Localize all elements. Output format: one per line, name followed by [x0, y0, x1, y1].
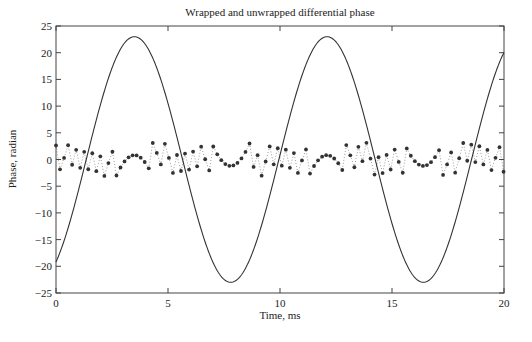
- wrapped-phase-marker: [74, 148, 78, 152]
- axes-frame: [56, 26, 504, 293]
- x-tick-label: 10: [275, 297, 287, 309]
- y-tick-label: 0: [47, 154, 53, 166]
- y-tick-label: −15: [35, 234, 53, 246]
- wrapped-phase-marker: [381, 171, 385, 175]
- wrapped-phase-marker: [397, 160, 401, 164]
- wrapped-phase-marker: [332, 157, 336, 161]
- wrapped-phase-marker: [183, 152, 187, 156]
- wrapped-phase-marker: [147, 166, 151, 170]
- wrapped-phase-marker: [94, 169, 98, 173]
- wrapped-phase-marker: [264, 160, 268, 164]
- wrapped-phase-marker: [449, 151, 453, 155]
- wrapped-phase-marker: [292, 151, 296, 155]
- wrapped-phase-marker: [296, 171, 300, 175]
- plot-area: 051015202520151050−5−10−15−20−25: [0, 0, 532, 342]
- wrapped-phase-marker: [308, 172, 312, 176]
- wrapped-phase-marker: [167, 156, 171, 160]
- wrapped-phase-marker: [369, 157, 373, 161]
- wrapped-phase-marker: [203, 157, 207, 161]
- unwrapped-phase-line: [56, 37, 504, 283]
- y-tick-label: 15: [41, 73, 53, 85]
- y-tick-label: 20: [41, 47, 53, 59]
- wrapped-phase-marker: [171, 171, 175, 175]
- wrapped-phase-marker: [236, 161, 240, 165]
- x-tick-label: 20: [499, 297, 511, 309]
- wrapped-phase-marker: [473, 160, 477, 164]
- wrapped-phase-marker: [377, 155, 381, 159]
- wrapped-phase-marker: [276, 146, 280, 150]
- wrapped-phase-marker: [357, 145, 361, 149]
- wrapped-phase-marker: [445, 163, 449, 167]
- wrapped-phase-marker: [155, 151, 159, 155]
- wrapped-phase-marker: [240, 157, 244, 161]
- x-tick-label: 5: [165, 297, 171, 309]
- wrapped-phase-marker: [312, 164, 316, 168]
- wrapped-phase-marker: [187, 168, 191, 172]
- wrapped-phase-marker: [131, 153, 135, 157]
- wrapped-phase-marker: [425, 163, 429, 167]
- wrapped-phase-marker: [248, 142, 252, 146]
- wrapped-phase-marker: [461, 141, 465, 145]
- wrapped-phase-marker: [232, 164, 236, 168]
- wrapped-phase-marker: [98, 154, 102, 158]
- wrapped-phase-marker: [469, 143, 473, 147]
- wrapped-phase-marker: [417, 163, 421, 167]
- wrapped-phase-marker: [336, 161, 340, 165]
- unwrapped-phase-series: [56, 37, 504, 283]
- wrapped-phase-marker: [252, 165, 256, 169]
- wrapped-phase-marker: [227, 164, 231, 168]
- wrapped-phase-marker: [127, 155, 131, 159]
- wrapped-phase-marker: [272, 162, 276, 166]
- wrapped-phase-marker: [502, 170, 506, 174]
- wrapped-phase-marker: [199, 145, 203, 149]
- wrapped-phase-marker: [256, 153, 260, 157]
- y-tick-label: −5: [40, 180, 52, 192]
- y-tick-label: 5: [47, 127, 53, 139]
- wrapped-phase-marker: [494, 156, 498, 160]
- wrapped-phase-marker: [453, 171, 457, 175]
- wrapped-phase-marker: [139, 156, 143, 160]
- wrapped-phase-marker: [477, 144, 481, 148]
- wrapped-phase-marker: [340, 168, 344, 172]
- y-axis-label: Phase, radian: [6, 109, 18, 209]
- wrapped-phase-marker: [401, 171, 405, 175]
- wrapped-phase-marker: [490, 168, 494, 172]
- chart-figure: Wrapped and unwrapped differential phase…: [0, 0, 532, 342]
- wrapped-phase-marker: [58, 167, 62, 171]
- wrapped-phase-marker: [320, 155, 324, 159]
- wrapped-phase-marker: [373, 173, 377, 177]
- wrapped-phase-marker: [352, 165, 356, 169]
- wrapped-phase-marker: [481, 163, 485, 167]
- wrapped-phase-marker: [219, 158, 223, 162]
- y-tick-label: −10: [35, 207, 53, 219]
- wrapped-phase-marker: [433, 155, 437, 159]
- wrapped-phase-marker: [465, 159, 469, 163]
- wrapped-phase-marker: [413, 159, 417, 163]
- y-tick-label: 25: [41, 20, 53, 32]
- wrapped-phase-marker: [223, 162, 227, 166]
- wrapped-phase-marker: [90, 151, 94, 155]
- y-tick-label: −25: [35, 287, 53, 299]
- y-tick-label: −20: [35, 260, 53, 272]
- wrapped-phase-marker: [498, 145, 502, 149]
- wrapped-phase-marker: [421, 164, 425, 168]
- wrapped-phase-marker: [304, 148, 308, 152]
- wrapped-phase-marker: [70, 163, 74, 167]
- wrapped-phase-marker: [163, 142, 167, 146]
- wrapped-phase-marker: [135, 154, 139, 158]
- wrapped-phase-marker: [361, 159, 365, 163]
- wrapped-phase-marker: [405, 146, 409, 150]
- wrapped-phase-marker: [66, 143, 70, 147]
- wrapped-phase-marker: [389, 168, 393, 172]
- wrapped-phase-marker: [328, 154, 332, 158]
- wrapped-phase-marker: [324, 153, 328, 157]
- wrapped-phase-marker: [260, 174, 264, 178]
- wrapped-phase-marker: [62, 156, 66, 160]
- wrapped-phase-marker: [179, 169, 183, 173]
- wrapped-phase-marker: [385, 153, 389, 157]
- wrapped-phase-marker: [191, 150, 195, 154]
- wrapped-phase-marker: [437, 148, 441, 152]
- wrapped-phase-marker: [244, 150, 248, 154]
- wrapped-phase-marker: [457, 156, 461, 160]
- wrapped-phase-marker: [215, 152, 219, 156]
